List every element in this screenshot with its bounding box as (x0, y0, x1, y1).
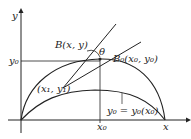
x0-label: x₀ (97, 122, 107, 132)
y-axis-label: y (12, 11, 18, 21)
point-B-label: B(x, y) (55, 40, 88, 50)
x-axis-arrow-icon (186, 118, 191, 123)
theta-label: θ (99, 47, 105, 57)
line-through-B (63, 24, 116, 88)
diagram-canvas (0, 0, 191, 139)
curve-label: y₀ = y₀(x₀) (107, 106, 159, 116)
y-axis-arrow-icon (19, 8, 24, 13)
point-B0-label: B₀(x₀, y₀) (113, 54, 158, 64)
x-end-label: x (163, 122, 169, 132)
point-1-label: (x₁, y₁) (37, 84, 70, 94)
y0-label: y₀ (9, 56, 19, 66)
point-B0 (99, 58, 102, 61)
diagram: y y₀ B(x, y) θ B₀(x₀, y₀) (x₁, y₁) y₀ = … (0, 0, 191, 139)
